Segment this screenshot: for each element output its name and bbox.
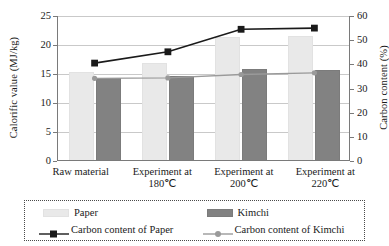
- y-axis-left-tick-label: 5: [25, 127, 51, 138]
- x-axis-category-labels: Raw materialExperiment at180℃Experiment …: [40, 166, 366, 196]
- marker-carbon-content-of-paper: [165, 48, 172, 55]
- chart-figure: Calorific value (MJ/kg) Carbon content (…: [0, 0, 389, 246]
- y-axis-right-tick-label: 30: [357, 84, 383, 95]
- legend-swatch-paper: [43, 209, 69, 217]
- y-axis-left-tick-label: 15: [25, 69, 51, 80]
- line-series-group: [58, 16, 351, 161]
- y-axis-left-tick-label: 10: [25, 98, 51, 109]
- chart-legend: Paper Kimchi Carbon content of Paper: [24, 200, 365, 241]
- legend-item-carbon-kimchi[interactable]: Carbon content of Kimchi: [195, 224, 359, 235]
- legend-item-carbon-paper[interactable]: Carbon content of Paper: [31, 224, 195, 235]
- plot-area: [57, 16, 350, 161]
- legend-swatch-kimchi: [207, 209, 233, 217]
- x-axis-category-label: Experiment at180℃: [122, 166, 204, 196]
- legend-label-paper: Paper: [74, 207, 98, 218]
- legend-label-kimchi: Kimchi: [238, 207, 270, 218]
- x-axis-category-label: Experiment at220℃: [285, 166, 367, 196]
- legend-item-kimchi[interactable]: Kimchi: [195, 207, 359, 218]
- marker-carbon-content-of-paper: [91, 60, 98, 67]
- x-axis-category-label-line: Raw material: [40, 166, 122, 178]
- legend-row-lines: Carbon content of Paper Carbon content o…: [31, 221, 358, 238]
- y-axis-right-tick-label: 0: [357, 156, 383, 167]
- x-axis-category-label-line: Experiment at: [285, 166, 367, 178]
- x-axis-category-label-line: 180℃: [122, 178, 204, 190]
- x-axis-category-label: Raw material: [40, 166, 122, 196]
- legend-label-carbon-paper: Carbon content of Paper: [71, 224, 173, 235]
- marker-carbon-content-of-kimchi: [92, 76, 97, 81]
- line-carbon-content-of-kimchi: [95, 73, 315, 79]
- y-axis-left-tick-label: 25: [25, 11, 51, 22]
- y-axis-right-tickmark: [350, 161, 354, 162]
- y-axis-right-tick-label: 20: [357, 108, 383, 119]
- marker-carbon-content-of-kimchi: [165, 75, 170, 80]
- x-axis-category-label-line: 220℃: [285, 178, 367, 190]
- marker-carbon-content-of-paper: [311, 25, 318, 32]
- legend-label-carbon-kimchi: Carbon content of Kimchi: [235, 224, 345, 235]
- y-axis-left-tick-label: 0: [25, 156, 51, 167]
- marker-carbon-content-of-kimchi: [239, 72, 244, 77]
- y-axis-right-tick-label: 40: [357, 59, 383, 70]
- legend-row-bars: Paper Kimchi: [31, 204, 358, 221]
- y-axis-left-tickmark: [53, 161, 57, 162]
- legend-swatch-carbon-kimchi: [203, 225, 233, 235]
- y-axis-left-tick-label: 20: [25, 40, 51, 51]
- x-axis-baseline: [58, 160, 349, 161]
- line-carbon-content-of-paper: [95, 28, 315, 63]
- x-axis-category-label-line: Experiment at: [203, 166, 285, 178]
- y-axis-right-tick-label: 10: [357, 132, 383, 143]
- legend-swatch-carbon-paper: [39, 225, 69, 235]
- y-axis-right-tick-label: 50: [357, 35, 383, 46]
- y-axis-left-title: Calorific value (MJ/kg): [8, 23, 19, 153]
- x-axis-category-label-line: Experiment at: [122, 166, 204, 178]
- x-axis-category-label-line: 200℃: [203, 178, 285, 190]
- y-axis-right-tick-label: 60: [357, 11, 383, 22]
- legend-item-paper[interactable]: Paper: [31, 207, 195, 218]
- x-axis-category-label: Experiment at200℃: [203, 166, 285, 196]
- marker-carbon-content-of-paper: [238, 26, 245, 33]
- marker-carbon-content-of-kimchi: [312, 70, 317, 75]
